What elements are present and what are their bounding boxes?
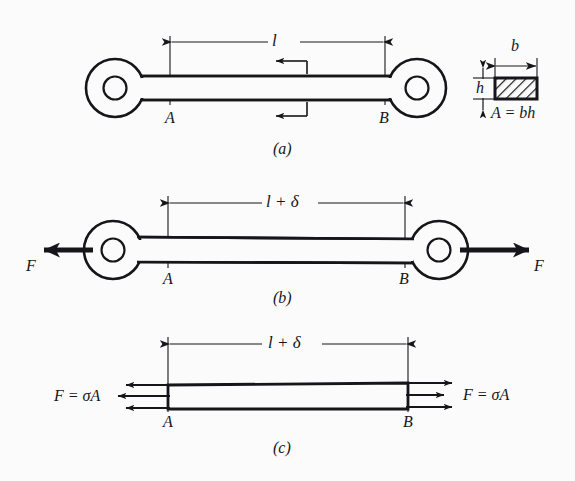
panel-c-bar-body bbox=[168, 383, 408, 409]
cross-section-area-equation: A = bh bbox=[491, 105, 535, 121]
panel-a-point-label-b: B bbox=[379, 110, 389, 126]
panel-c-caption: (c) bbox=[273, 440, 291, 456]
panel-a-graphics bbox=[86, 36, 446, 117]
panel-b-force-label-left: F bbox=[26, 258, 36, 274]
cross-section-height-label: h bbox=[476, 80, 484, 96]
panel-c-stress-arrows-left bbox=[118, 385, 170, 408]
figure-page: l A B (a) b h A = bh l + δ A B F F (b) l… bbox=[0, 0, 575, 481]
panel-b-point-label-b: B bbox=[399, 271, 409, 287]
panel-b-dimension-label: l + δ bbox=[266, 193, 299, 210]
cross-section-width-label: b bbox=[511, 38, 519, 54]
panel-a-eyebar bbox=[86, 59, 446, 117]
panel-a-dimension-label: l bbox=[272, 32, 277, 49]
panel-c-point-label-b: B bbox=[403, 414, 413, 430]
panel-a-point-label-a: A bbox=[165, 110, 175, 126]
panel-c-force-label-left: F = σA bbox=[54, 388, 100, 404]
cross-section-rectangle bbox=[495, 78, 537, 99]
panel-c-stress-arrows-right bbox=[406, 383, 452, 407]
panel-a-caption: (a) bbox=[273, 141, 292, 157]
panel-b-force-label-right: F bbox=[534, 258, 544, 274]
panel-c-point-label-a: A bbox=[163, 414, 173, 430]
panel-b-eyebar bbox=[84, 221, 468, 279]
panel-b-point-label-a: A bbox=[163, 271, 173, 287]
engineering-figure-svg bbox=[0, 0, 575, 481]
panel-c-force-label-right: F = σA bbox=[463, 387, 509, 403]
panel-b-caption: (b) bbox=[273, 290, 292, 306]
panel-c-dimension-label: l + δ bbox=[268, 334, 301, 351]
